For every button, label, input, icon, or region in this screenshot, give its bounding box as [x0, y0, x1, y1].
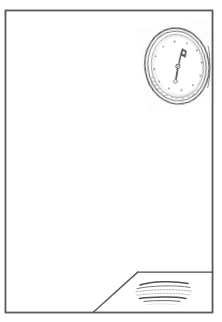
- line-drawing-svg: [0, 0, 222, 322]
- drawing-canvas: [0, 0, 222, 322]
